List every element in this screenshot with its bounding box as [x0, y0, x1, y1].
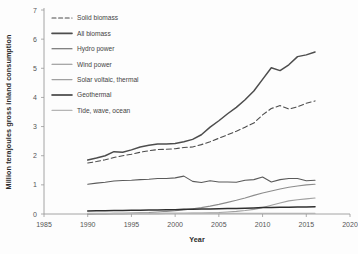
y-tick-label: 2: [33, 152, 37, 159]
x-tick-label: 2000: [167, 221, 183, 228]
x-tick-label: 2020: [342, 221, 358, 228]
y-axis-title: Million terajoules gross inland consumpt…: [4, 35, 13, 190]
legend-label-0: Solid biomass: [77, 14, 119, 21]
y-tick-label: 4: [33, 94, 37, 101]
legend-label-2: Hydro power: [77, 45, 115, 53]
x-tick-label: 1990: [80, 221, 96, 228]
x-tick-label: 2005: [211, 221, 227, 228]
y-tick-label: 3: [33, 123, 37, 130]
x-tick-label: 2015: [298, 221, 314, 228]
x-axis-title: Year: [189, 235, 205, 244]
chart-figure: 0123456719851990199520002005201020152020…: [0, 0, 358, 254]
x-tick-label: 1995: [124, 221, 140, 228]
legend-label-6: Tide, wave, ocean: [77, 107, 131, 114]
line-chart: 0123456719851990199520002005201020152020…: [0, 0, 358, 254]
y-tick-label: 6: [33, 36, 37, 43]
y-tick-label: 5: [33, 65, 37, 72]
legend-label-1: All biomass: [77, 30, 111, 37]
legend-label-5: Geothermal: [77, 91, 112, 98]
series-line-2: [88, 176, 315, 184]
legend-label-3: Wind power: [77, 61, 113, 69]
y-tick-label: 7: [33, 7, 37, 14]
x-tick-label: 2010: [255, 221, 271, 228]
y-tick-label: 0: [33, 211, 37, 218]
x-tick-label: 1985: [36, 221, 52, 228]
y-tick-label: 1: [33, 181, 37, 188]
series-line-4: [88, 198, 315, 214]
legend-label-4: Solar voltaic, thermal: [77, 76, 139, 83]
